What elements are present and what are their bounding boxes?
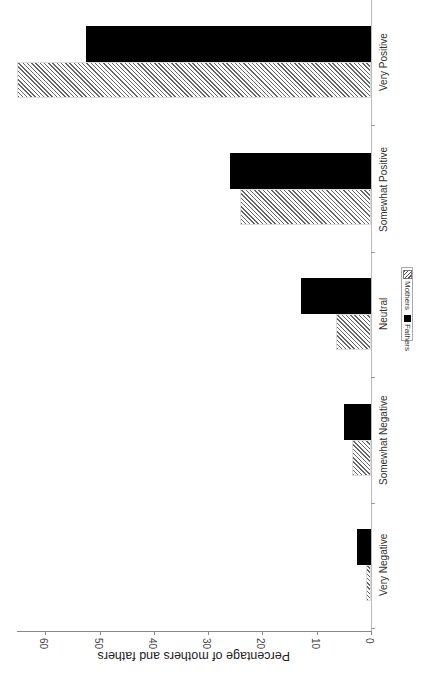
bar-fathers-very-positive bbox=[86, 26, 371, 62]
legend: Mothers Fathers bbox=[401, 267, 413, 341]
legend-fathers: Fathers bbox=[403, 324, 412, 351]
value-tick-label: 60 bbox=[38, 638, 49, 649]
value-tick-label: 30 bbox=[201, 638, 212, 649]
value-tick bbox=[262, 631, 263, 635]
value-tick bbox=[100, 631, 101, 635]
value-tick-label: 10 bbox=[310, 638, 321, 649]
bar-fathers-somewhat-negative bbox=[344, 404, 371, 440]
y-axis-title: Percentage of mothers and fathers bbox=[98, 649, 290, 663]
bar-mothers-somewhat-positive bbox=[240, 189, 371, 225]
value-tick-label: 20 bbox=[255, 638, 266, 649]
category-label: Somewhat Negative bbox=[378, 396, 389, 486]
value-tick-label: 40 bbox=[147, 638, 158, 649]
value-tick-label: 50 bbox=[93, 638, 104, 649]
bar-mothers-very-positive bbox=[17, 62, 371, 98]
bar-mothers-very-negative bbox=[366, 565, 371, 601]
category-tick bbox=[371, 377, 375, 378]
category-label: Neutral bbox=[378, 298, 389, 330]
value-axis-line bbox=[17, 631, 372, 632]
value-tick bbox=[154, 631, 155, 635]
value-tick bbox=[45, 631, 46, 635]
value-tick-label: 0 bbox=[364, 638, 375, 644]
bar-fathers-neutral bbox=[301, 278, 371, 314]
category-label: Very Negative bbox=[378, 534, 389, 596]
category-tick bbox=[371, 503, 375, 504]
legend-mothers: Mothers bbox=[403, 281, 412, 310]
fathers-swatch-icon bbox=[404, 315, 411, 322]
category-axis-line bbox=[371, 0, 372, 632]
value-tick bbox=[371, 631, 372, 635]
value-tick bbox=[317, 631, 318, 635]
bar-mothers-neutral bbox=[336, 314, 371, 350]
bar-fathers-somewhat-positive bbox=[230, 153, 371, 189]
bar-mothers-somewhat-negative bbox=[352, 440, 371, 476]
category-label: Somewhat Positive bbox=[378, 146, 389, 231]
category-label: Very Positive bbox=[378, 33, 389, 91]
category-tick bbox=[371, 252, 375, 253]
bar-fathers-very-negative bbox=[357, 529, 371, 565]
value-tick bbox=[208, 631, 209, 635]
mothers-swatch-icon bbox=[403, 270, 412, 279]
category-tick bbox=[371, 125, 375, 126]
bar-chart: 0102030405060 Very NegativeSomewhat Nega… bbox=[0, 0, 422, 675]
category-tick bbox=[371, 628, 375, 629]
